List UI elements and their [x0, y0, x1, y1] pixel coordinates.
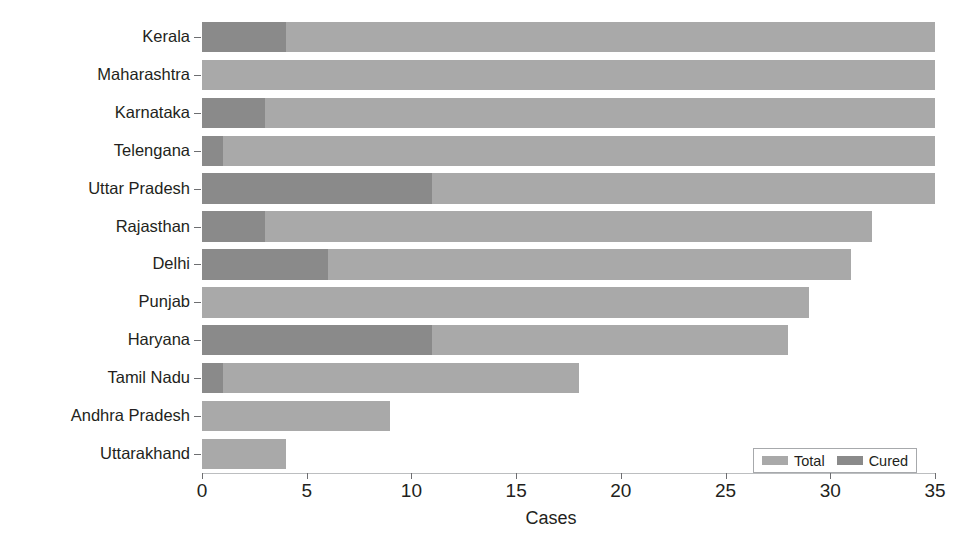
- y-axis-label: Andhra Pradesh: [71, 407, 190, 424]
- y-axis-tick: [194, 340, 201, 341]
- bar-segment-total: [202, 60, 935, 90]
- legend-entry: Cured: [837, 453, 909, 469]
- bar-segment-total: [202, 22, 935, 52]
- bar-track: [202, 287, 809, 317]
- bar-row: [202, 363, 935, 393]
- bar-segment-cured: [202, 136, 223, 166]
- bar-row: [202, 211, 935, 241]
- bar-row: [202, 287, 935, 317]
- bar-track: [202, 211, 872, 241]
- x-axis-tick-label: 0: [197, 481, 208, 502]
- x-axis-tick: [830, 473, 831, 479]
- bar-track: [202, 249, 851, 279]
- bar-track: [202, 136, 935, 166]
- y-axis-label: Uttar Pradesh: [88, 180, 190, 197]
- bar-segment-cured: [202, 325, 432, 355]
- x-axis-tick: [307, 473, 308, 479]
- bar-row: [202, 60, 935, 90]
- y-axis-label: Delhi: [152, 255, 190, 272]
- x-axis-title-text: Cases: [525, 508, 576, 528]
- legend-swatch-icon: [837, 456, 863, 465]
- bar-row: [202, 98, 935, 128]
- x-axis-tick-label: 15: [506, 481, 527, 502]
- x-axis-tick: [411, 473, 412, 479]
- bar-row: [202, 136, 935, 166]
- y-axis-label: Punjab: [139, 293, 190, 310]
- bar-row: [202, 401, 935, 431]
- bar-segment-total: [202, 439, 286, 469]
- y-axis-tick: [194, 416, 201, 417]
- legend-entry: Total: [762, 453, 825, 469]
- y-axis-tick: [194, 302, 201, 303]
- y-axis-label: Kerala: [142, 28, 190, 45]
- bar-segment-cured: [202, 211, 265, 241]
- bar-segment-cured: [202, 363, 223, 393]
- x-axis-tick-label: 30: [820, 481, 841, 502]
- x-axis-tick: [621, 473, 622, 479]
- bar-row: [202, 325, 935, 355]
- bar-segment-cured: [202, 173, 432, 203]
- y-axis-label: Tamil Nadu: [107, 369, 190, 386]
- bar-track: [202, 22, 935, 52]
- y-axis-tick: [194, 378, 201, 379]
- y-axis-tick: [194, 37, 201, 38]
- x-axis-tick-label: 20: [610, 481, 631, 502]
- x-axis-tick-label: 10: [401, 481, 422, 502]
- x-axis-tick-label: 25: [715, 481, 736, 502]
- chart-figure: KeralaMaharashtraKarnatakaTelenganaUttar…: [0, 0, 962, 547]
- x-axis-tick: [516, 473, 517, 479]
- bar-track: [202, 325, 788, 355]
- y-axis-labels: KeralaMaharashtraKarnatakaTelenganaUttar…: [0, 18, 190, 473]
- legend-label: Cured: [869, 453, 909, 469]
- y-axis-label: Maharashtra: [97, 66, 190, 83]
- y-axis-tick: [194, 227, 201, 228]
- x-axis-tick: [202, 473, 203, 479]
- plot-area: [202, 18, 935, 473]
- x-axis-tick-label: 35: [924, 481, 945, 502]
- y-axis-label: Telengana: [114, 142, 190, 159]
- bar-segment-cured: [202, 22, 286, 52]
- bar-segment-total: [202, 98, 935, 128]
- y-axis-tick: [194, 151, 201, 152]
- bar-track: [202, 173, 935, 203]
- bar-segment-cured: [202, 98, 265, 128]
- bar-row: [202, 173, 935, 203]
- y-axis-tick: [194, 454, 201, 455]
- bar-row: [202, 249, 935, 279]
- y-axis-tick: [194, 264, 201, 265]
- y-axis-tick: [194, 75, 201, 76]
- bar-track: [202, 439, 286, 469]
- chart-legend: TotalCured: [753, 448, 917, 473]
- bar-segment-total: [202, 287, 809, 317]
- bar-track: [202, 363, 579, 393]
- bar-segment-total: [202, 401, 390, 431]
- bar-segment-cured: [202, 249, 328, 279]
- bar-row: [202, 22, 935, 52]
- x-axis-tick: [935, 473, 936, 479]
- legend-swatch-icon: [762, 456, 788, 465]
- x-axis-line: [202, 473, 935, 474]
- y-axis-label: Haryana: [128, 331, 190, 348]
- x-axis-title: Cases: [0, 508, 962, 529]
- y-axis-label: Karnataka: [115, 104, 190, 121]
- bar-track: [202, 98, 935, 128]
- y-axis-label: Rajasthan: [116, 218, 190, 235]
- bar-track: [202, 401, 390, 431]
- bar-segment-total: [202, 363, 579, 393]
- legend-label: Total: [794, 453, 825, 469]
- bar-segment-total: [202, 136, 935, 166]
- bar-segment-total: [202, 211, 872, 241]
- bar-track: [202, 60, 935, 90]
- y-axis-tick: [194, 189, 201, 190]
- y-axis-tick: [194, 113, 201, 114]
- x-axis-tick-label: 5: [301, 481, 312, 502]
- x-axis-tick: [726, 473, 727, 479]
- y-axis-label: Uttarakhand: [100, 445, 190, 462]
